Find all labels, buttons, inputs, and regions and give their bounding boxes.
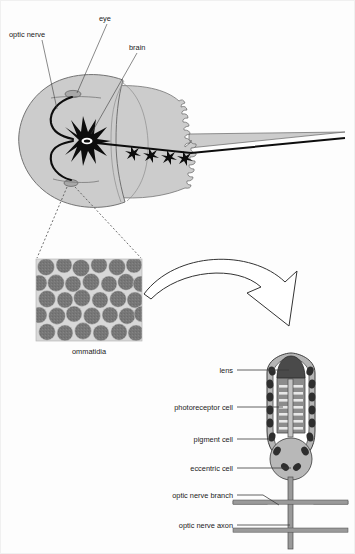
label-lens: lens [219, 366, 233, 375]
label-photoreceptor-cell: photoreceptor cell [174, 403, 233, 412]
optic-nerve-trunk [233, 500, 348, 504]
label-eye: eye [99, 14, 111, 23]
label-optic-nerve-branch: optic nerve branch [172, 491, 233, 500]
eccentric-cell-body [270, 438, 312, 480]
figure-root: optic nerve eye brain [0, 0, 355, 554]
label-ommatidia: ommatidia [72, 347, 107, 356]
label-brain: brain [129, 43, 145, 52]
crab-body-group [19, 24, 345, 258]
label-pigment-cell: pigment cell [194, 435, 234, 444]
ommatidium-cross-section [233, 353, 348, 549]
central-axon-column [288, 379, 293, 437]
label-optic-nerve-axon: optic nerve axon [179, 521, 233, 530]
ommatidia-micrograph [31, 257, 150, 341]
label-eccentric-cell: eccentric cell [190, 464, 233, 473]
crab-abdomen [111, 86, 196, 198]
magnification-arrow [144, 259, 297, 326]
diagram-canvas: optic nerve eye brain [1, 1, 355, 554]
optic-nerve-axon-trunk [233, 528, 348, 532]
label-optic-nerve: optic nerve [9, 30, 45, 39]
descending-axon [288, 477, 293, 549]
